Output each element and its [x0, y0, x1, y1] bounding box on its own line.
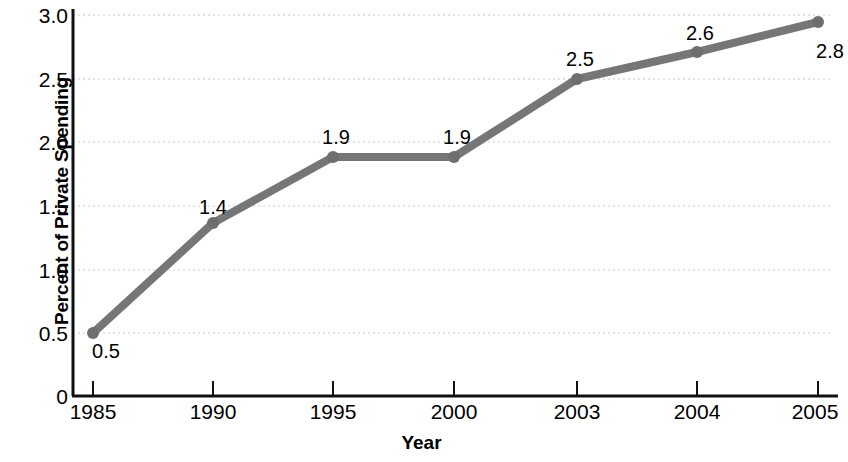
x-tick-label: 2005 — [770, 400, 848, 424]
data-point — [207, 217, 219, 229]
data-point — [327, 151, 339, 163]
data-point-label: 2.5 — [540, 48, 620, 70]
x-axis-ticks — [93, 381, 818, 396]
data-point-label: 2.6 — [660, 22, 740, 44]
data-point — [812, 16, 824, 28]
x-axis-title: Year — [0, 432, 843, 454]
data-point-label: 1.9 — [296, 126, 376, 148]
x-tick-label: 2004 — [652, 400, 742, 424]
data-point — [691, 46, 703, 58]
x-tick-label: 2003 — [532, 400, 622, 424]
data-point-label: 0.5 — [66, 340, 146, 362]
x-tick-label: 2000 — [409, 400, 499, 424]
data-point — [87, 327, 99, 339]
data-series-line — [87, 16, 824, 339]
gridlines — [73, 15, 830, 333]
x-tick-label: 1985 — [48, 400, 138, 424]
data-point-label: 1.4 — [173, 196, 253, 218]
x-tick-label: 1995 — [288, 400, 378, 424]
x-tick-label: 1990 — [168, 400, 258, 424]
data-point-label: 2.8 — [790, 40, 848, 62]
data-point — [448, 151, 460, 163]
data-point-label: 1.9 — [417, 126, 497, 148]
data-point — [571, 73, 583, 85]
x-axis-tick-labels: 1985 1990 1995 2000 2003 2004 2005 — [0, 400, 843, 430]
